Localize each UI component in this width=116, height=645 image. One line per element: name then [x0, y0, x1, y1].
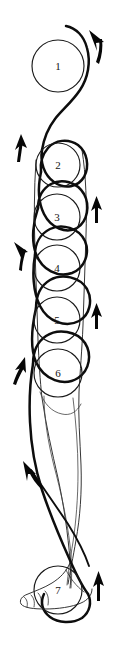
node-7[interactable]: 7 — [34, 566, 82, 614]
leg-spiral-diagram: 1 2 3 4 5 6 7 — [0, 0, 116, 645]
node-1[interactable]: 1 — [32, 40, 84, 92]
toe-line-4 — [45, 591, 48, 605]
arrow-mid-left-icon — [23, 461, 43, 489]
spiral-segment-7 — [42, 594, 90, 622]
toe-line-2 — [31, 595, 34, 607]
arrow-bottom-right-icon — [93, 571, 104, 601]
node-label-4: 4 — [54, 262, 60, 274]
spiral-segment-4 — [33, 208, 87, 274]
node-label-6: 6 — [55, 367, 61, 379]
node-4[interactable]: 4 — [34, 245, 80, 291]
leg-outer-contour — [68, 150, 86, 584]
node-label-2: 2 — [55, 159, 61, 171]
arrow-left-6-icon — [13, 357, 26, 385]
node-5[interactable]: 5 — [34, 297, 80, 343]
node-label-5: 5 — [54, 314, 60, 326]
node-label-1: 1 — [55, 60, 61, 72]
arrow-right-5-icon — [91, 303, 102, 329]
arrow-right-3-icon — [91, 196, 102, 223]
node-circles-group: 1 2 3 4 5 6 7 — [32, 40, 84, 614]
arrow-left-2-icon — [15, 134, 27, 162]
node-label-3: 3 — [54, 211, 60, 223]
node-6[interactable]: 6 — [34, 349, 82, 397]
leg-muscle-line-a — [44, 396, 72, 588]
arrow-left-4-icon — [14, 242, 28, 271]
node-3[interactable]: 3 — [34, 194, 80, 240]
toe-line-1 — [24, 597, 27, 607]
arrow-top-right-icon — [89, 30, 104, 64]
diagram-canvas: 1 2 3 4 5 6 7 — [0, 0, 116, 645]
spiral-line-group — [30, 26, 90, 622]
arrow-left-4-head — [14, 242, 28, 260]
node-label-7: 7 — [55, 584, 61, 596]
spiral-segment-top — [42, 26, 89, 150]
